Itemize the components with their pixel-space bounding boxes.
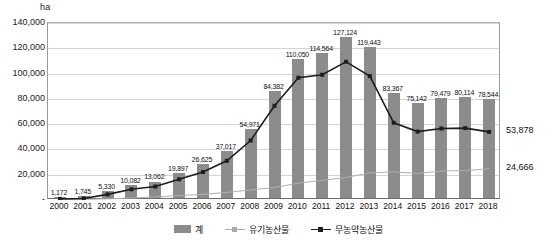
x-axis-tick-label: 2007	[216, 201, 235, 211]
x-axis-tick-label: 2002	[97, 201, 116, 211]
legend-line-swatch-icon	[225, 225, 245, 233]
line-marker	[320, 73, 324, 77]
bar-value-label: 78,544	[478, 91, 498, 98]
legend-bar-swatch-icon	[174, 225, 191, 233]
line-marker	[487, 130, 491, 134]
bar-value-label: 75,142	[406, 95, 426, 102]
line-marker	[106, 192, 110, 196]
y-axis-tick-label: 80,000	[1, 93, 45, 103]
bar-value-label: 1,172	[51, 189, 68, 196]
line-marker	[249, 138, 253, 142]
x-axis-tick-label: 2010	[288, 201, 307, 211]
bar-value-label: 26,625	[192, 156, 212, 163]
line-marker	[296, 76, 300, 80]
line-marker	[416, 130, 420, 134]
bar-value-label: 127,124	[333, 29, 357, 36]
bar-value-label: 84,382	[263, 83, 283, 90]
bar-value-label: 54,971	[240, 121, 260, 128]
x-axis-tick-label: 2014	[383, 201, 402, 211]
x-axis-tick-label: 2008	[240, 201, 259, 211]
line-marker	[344, 60, 348, 64]
x-axis-tick-label: 2000	[49, 201, 68, 211]
y-axis: 140,000120,000100,00080,00060,00040,0002…	[0, 22, 45, 199]
line-marker	[201, 170, 205, 174]
line-marker	[82, 196, 86, 200]
line-marker	[177, 177, 181, 181]
bar-value-label: 83,367	[383, 85, 403, 92]
legend-line-swatch-icon	[311, 225, 331, 233]
bar-value-label: 13,062	[144, 173, 164, 180]
y-axis-tick-label: 60,000	[1, 118, 45, 128]
chart-legend: 계유기농산물무농약농산물	[0, 220, 556, 238]
line-marker	[439, 127, 443, 131]
bar-value-label: 119,443	[357, 39, 380, 46]
bar-value-label: 114,564	[309, 45, 332, 52]
bar-value-label: 110,050	[286, 51, 309, 58]
x-axis-tick-label: 2016	[431, 201, 450, 211]
bar-value-label: 79,479	[430, 90, 450, 97]
x-axis-tick-label: 2006	[193, 201, 212, 211]
x-axis-tick-label: 2012	[336, 201, 355, 211]
y-axis-unit-label: ha	[40, 2, 50, 12]
legend-item[interactable]: 계	[174, 223, 203, 236]
x-axis-tick-label: 2011	[312, 201, 330, 211]
bar-value-label: 19,897	[168, 165, 188, 172]
y-axis-tick-label: 140,000	[1, 17, 45, 27]
x-axis: 2000200120022003200420052006200720082009…	[47, 201, 500, 215]
line-end-label: 53,878	[506, 125, 534, 135]
x-axis-tick-label: 2003	[121, 201, 140, 211]
y-axis-tick-label: 20,000	[1, 169, 45, 179]
x-axis-tick-label: 2004	[145, 201, 164, 211]
legend-label: 유기농산물	[249, 223, 289, 236]
x-axis-tick-label: 2001	[73, 201, 92, 211]
chart-container: ha 140,000120,000100,00080,00060,00040,0…	[0, 0, 556, 240]
legend-label: 무농약농산물	[335, 223, 383, 236]
bar-value-label: 37,017	[216, 143, 236, 150]
bar-value-label: 1,745	[74, 188, 91, 195]
line-series-overlay	[48, 23, 501, 200]
line-marker	[225, 159, 229, 163]
x-axis-tick-label: 2013	[359, 201, 378, 211]
x-axis-tick-label: 2005	[169, 201, 188, 211]
legend-item[interactable]: 유기농산물	[225, 223, 289, 236]
y-axis-tick-label: 100,000	[1, 68, 45, 78]
bar-value-label: 10,082	[120, 177, 140, 184]
line-end-label: 24,666	[506, 162, 534, 172]
line-marker	[392, 121, 396, 125]
x-axis-tick-label: 2015	[407, 201, 426, 211]
y-axis-tick-label: 120,000	[1, 42, 45, 52]
plot-area	[47, 22, 500, 199]
line-marker	[463, 126, 467, 130]
bar-value-label: 5,330	[98, 183, 115, 190]
y-axis-tick-label: -	[1, 194, 45, 204]
bar-value-label: 80,114	[454, 89, 474, 96]
line-marker	[129, 187, 133, 191]
legend-label: 계	[195, 223, 203, 236]
y-axis-tick-label: 40,000	[1, 143, 45, 153]
line-marker	[273, 104, 277, 108]
x-axis-tick-label: 2018	[479, 201, 498, 211]
line-marker	[153, 185, 157, 189]
line-marker	[58, 197, 62, 200]
legend-item[interactable]: 무농약농산물	[311, 223, 383, 236]
line-marker	[368, 74, 372, 78]
x-axis-tick-label: 2017	[455, 201, 474, 211]
x-axis-tick-label: 2009	[264, 201, 283, 211]
